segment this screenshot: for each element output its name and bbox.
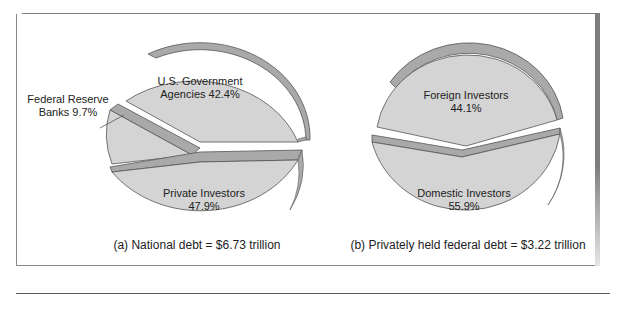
label-private-investors-2: 47.9% <box>188 200 219 212</box>
label-gov-agencies-1: U.S. Government <box>158 75 243 87</box>
label-gov-agencies-2: Agencies 42.4% <box>160 88 240 100</box>
label-foreign-1: Foreign Investors <box>424 89 509 101</box>
label-fed-reserve-1: Federal Reserve <box>27 93 108 105</box>
label-foreign-2: 44.1% <box>450 102 481 114</box>
caption-b: (b) Privately held federal debt = $3.22 … <box>350 238 585 252</box>
pie-chart-privately-held: Foreign Investors 44.1% Domestic Investo… <box>350 43 585 252</box>
label-domestic-2: 55.9% <box>448 200 479 212</box>
label-private-investors-1: Private Investors <box>163 187 245 199</box>
label-fed-reserve-2: Banks 9.7% <box>39 106 98 118</box>
pie-chart-national-debt: U.S. Government Agencies 42.4% Federal R… <box>27 43 310 252</box>
pie-charts: U.S. Government Agencies 42.4% Federal R… <box>0 0 626 313</box>
label-domestic-1: Domestic Investors <box>417 187 511 199</box>
caption-a: (a) National debt = $6.73 trillion <box>113 238 280 252</box>
